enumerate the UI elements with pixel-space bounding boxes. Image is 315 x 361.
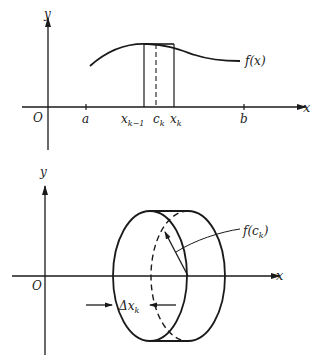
y-axis-label: y	[39, 165, 47, 179]
function-label: f(x)	[244, 54, 266, 68]
radius-label: f(ck)	[242, 224, 269, 240]
radius-leader-line	[176, 229, 240, 252]
x-axis-label: x	[303, 100, 311, 115]
top-figure: y x O a b f(x) xk−1 ck xk	[22, 7, 311, 150]
function-curve	[90, 44, 240, 66]
riemann-disk-diagram: y x O a b f(x) xk−1 ck xk y	[0, 0, 315, 361]
origin-label: O	[33, 111, 43, 125]
tick-label-a: a	[82, 112, 89, 126]
tick-label-b: b	[240, 112, 248, 126]
x-axis-label: x	[276, 268, 284, 283]
tick-label-x-k-minus-1: xk−1	[121, 112, 144, 128]
width-label: Δxk	[118, 299, 139, 315]
y-axis-label: y	[43, 7, 51, 21]
tick-label-c-k: ck	[153, 112, 165, 128]
bottom-figure: y x O f(ck) Δxk	[12, 165, 284, 355]
origin-label: O	[32, 279, 42, 293]
tick-label-x-k: xk	[170, 112, 182, 128]
